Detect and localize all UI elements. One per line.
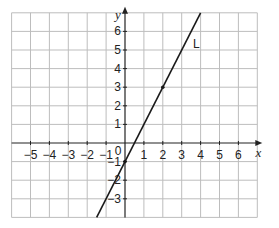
y-tick-label: 5 bbox=[114, 43, 121, 57]
marked-point bbox=[123, 160, 127, 164]
y-tick-label: 2 bbox=[114, 99, 121, 113]
y-tick-label: 4 bbox=[114, 62, 121, 76]
x-tick-label: 2 bbox=[159, 148, 166, 162]
line-L bbox=[97, 13, 201, 218]
x-tick-label: −4 bbox=[43, 148, 57, 162]
grid-lines bbox=[12, 13, 258, 218]
origin-label: 0 bbox=[115, 144, 122, 158]
x-tick-label: −5 bbox=[24, 148, 38, 162]
line-name-label: L bbox=[193, 37, 200, 51]
y-axis-arrow-icon bbox=[122, 7, 128, 14]
line-L bbox=[97, 13, 201, 218]
y-axis-label: y bbox=[113, 7, 121, 22]
marked-point bbox=[161, 85, 165, 89]
y-tick-label: 3 bbox=[114, 80, 121, 94]
x-tick-label: 5 bbox=[216, 148, 223, 162]
y-tick-label: −2 bbox=[107, 173, 121, 187]
y-tick-label: 6 bbox=[114, 24, 121, 38]
x-tick-label: 3 bbox=[178, 148, 185, 162]
x-tick-label: 6 bbox=[235, 148, 242, 162]
x-tick-label: −3 bbox=[61, 148, 75, 162]
x-tick-label: 4 bbox=[197, 148, 204, 162]
y-tick-label: 1 bbox=[114, 117, 121, 131]
x-tick-label: 1 bbox=[141, 148, 148, 162]
x-axis-label: x bbox=[254, 145, 261, 160]
coordinate-grid-chart: −5−4−3−2−1123456654321−1−2−30xyL bbox=[0, 0, 279, 228]
x-tick-label: −2 bbox=[80, 148, 94, 162]
